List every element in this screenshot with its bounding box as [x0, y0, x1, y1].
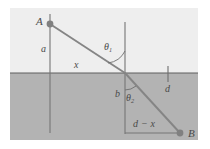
- label-distance-a: a: [41, 44, 46, 54]
- point-b-marker: [177, 130, 184, 137]
- theta-1-subscript: 1: [109, 46, 112, 53]
- label-theta-1: θ1: [104, 42, 112, 53]
- label-distance-b: b: [115, 89, 120, 99]
- label-theta-2: θ2: [126, 93, 134, 104]
- label-distance-d-minus-x: d − x: [133, 119, 155, 129]
- label-point-a: A: [36, 16, 43, 27]
- theta-2-subscript: 2: [131, 97, 134, 104]
- diagram-canvas: [0, 0, 210, 149]
- label-point-b: B: [188, 128, 195, 139]
- refraction-diagram: A B a b x d d − x θ1 θ2: [0, 0, 210, 149]
- label-distance-x: x: [74, 60, 78, 70]
- point-a-marker: [47, 21, 54, 28]
- label-distance-d: d: [165, 84, 170, 94]
